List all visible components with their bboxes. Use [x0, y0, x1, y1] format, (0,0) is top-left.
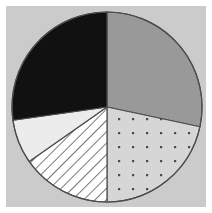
pie-chart-canvas [0, 0, 212, 213]
pie-chart-figure [0, 0, 212, 213]
pie-slice-5[interactable] [12, 12, 107, 120]
pie-slices-group [12, 12, 202, 202]
